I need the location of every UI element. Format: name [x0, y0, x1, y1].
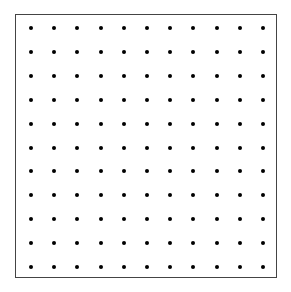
grid-dot	[215, 146, 219, 150]
grid-dot	[238, 98, 242, 102]
grid-dot	[145, 98, 149, 102]
grid-dot	[122, 122, 126, 126]
grid-dot	[168, 146, 172, 150]
grid-dot	[261, 122, 265, 126]
grid-dot	[29, 74, 33, 78]
grid-dot	[238, 146, 242, 150]
grid-dot	[238, 241, 242, 245]
grid-dot	[238, 74, 242, 78]
grid-dot	[215, 98, 219, 102]
grid-dot	[238, 50, 242, 54]
grid-dot	[215, 74, 219, 78]
grid-dot	[99, 122, 103, 126]
grid-dot	[215, 241, 219, 245]
grid-dot	[122, 146, 126, 150]
grid-dot	[99, 26, 103, 30]
grid-dot	[238, 122, 242, 126]
grid-dot	[168, 74, 172, 78]
grid-dot	[99, 50, 103, 54]
grid-dot	[261, 50, 265, 54]
grid-dot	[261, 74, 265, 78]
grid-dot	[215, 50, 219, 54]
grid-dot	[29, 26, 33, 30]
grid-dot	[122, 241, 126, 245]
grid-dot	[52, 98, 56, 102]
grid-dot	[145, 265, 149, 269]
grid-dot	[99, 74, 103, 78]
grid-dot	[29, 146, 33, 150]
grid-dot	[99, 193, 103, 197]
grid-dot	[261, 146, 265, 150]
grid-dot	[99, 241, 103, 245]
grid-dot	[145, 146, 149, 150]
grid-dot	[261, 265, 265, 269]
grid-dot	[99, 146, 103, 150]
grid-dot	[238, 217, 242, 221]
grid-dot	[99, 265, 103, 269]
grid-dot	[75, 146, 79, 150]
grid-dot	[191, 146, 195, 150]
grid-dot	[122, 74, 126, 78]
grid-dot	[122, 26, 126, 30]
grid-dot	[215, 217, 219, 221]
grid-dot	[122, 217, 126, 221]
grid-dot	[238, 26, 242, 30]
grid-dot	[122, 50, 126, 54]
grid-dot	[215, 26, 219, 30]
grid-dot	[29, 122, 33, 126]
grid-dot	[99, 98, 103, 102]
grid-dot	[145, 122, 149, 126]
grid-dot	[52, 122, 56, 126]
grid-dot	[261, 98, 265, 102]
grid-dot	[261, 26, 265, 30]
grid-dot	[215, 193, 219, 197]
grid-dot	[52, 74, 56, 78]
grid-dot	[29, 50, 33, 54]
grid-dot	[29, 265, 33, 269]
grid-dot	[122, 265, 126, 269]
grid-dot	[145, 50, 149, 54]
grid-dot	[145, 26, 149, 30]
grid-dot	[168, 122, 172, 126]
grid-dot	[99, 217, 103, 221]
grid-dot	[145, 74, 149, 78]
grid-dot	[29, 98, 33, 102]
grid-dot	[215, 122, 219, 126]
grid-dot	[52, 146, 56, 150]
grid-dot	[238, 265, 242, 269]
grid-dot	[168, 98, 172, 102]
grid-dot	[215, 265, 219, 269]
grid-dot	[122, 98, 126, 102]
